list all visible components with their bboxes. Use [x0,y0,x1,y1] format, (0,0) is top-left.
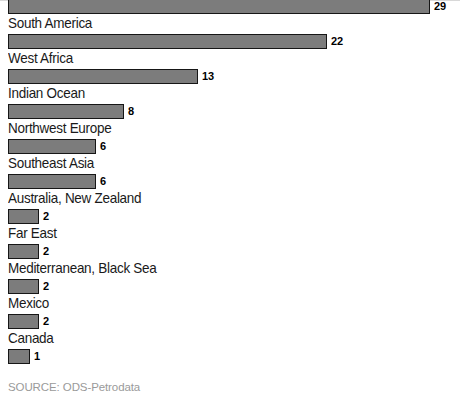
bar-group: Australia, New Zealand2 [0,190,460,225]
bar-row: 1 [0,349,460,365]
bar-row: 6 [0,174,460,190]
bar [8,0,430,14]
bar-row: 29 [0,0,460,15]
bar [8,174,96,189]
bar-category-label: Far East [8,224,57,243]
bar-row: 2 [0,209,460,225]
bar-category-label: West Africa [8,49,73,68]
bar-category-label: Mexico [8,294,49,313]
bar-row: 2 [0,314,460,330]
bar-value-label: 29 [434,0,446,14]
bar-category-label: Southeast Asia [8,154,94,173]
bar-row: 22 [0,34,460,50]
bar-row: 8 [0,104,460,120]
bar-category-label: Mediterranean, Black Sea [8,259,156,278]
bar-series-stack: 29South America22West Africa13Indian Oce… [0,0,460,365]
bar-category-label: Canada [8,329,54,348]
bar-row: 6 [0,139,460,155]
bar-category-label: Indian Ocean [8,84,85,103]
bar [8,69,198,84]
bar-group: Far East2 [0,225,460,260]
bar-group: Southeast Asia6 [0,155,460,190]
bar [8,34,327,49]
bar-value-label: 2 [43,278,49,294]
bar [8,244,39,259]
bar-value-label: 13 [202,68,214,84]
bar-group: Northwest Europe6 [0,120,460,155]
bar-group: West Africa13 [0,50,460,85]
bar [8,349,30,364]
horizontal-bar-chart: 29South America22West Africa13Indian Oce… [0,0,460,410]
bar-row: 13 [0,69,460,85]
bar-value-label: 2 [43,208,49,224]
chart-plot-area: 29South America22West Africa13Indian Oce… [0,0,460,378]
bar [8,314,39,329]
source-note: SOURCE: ODS-Petrodata [8,381,140,393]
bar-value-label: 6 [100,173,106,189]
bar [8,104,124,119]
bar-value-label: 6 [100,138,106,154]
bar-category-label: Australia, New Zealand [8,189,141,208]
bar-value-label: 1 [34,348,40,364]
bar-value-label: 2 [43,243,49,259]
bar-group: Canada1 [0,330,460,365]
bar-group: Mexico2 [0,295,460,330]
bar-group: Mediterranean, Black Sea2 [0,260,460,295]
bar [8,279,39,294]
bar-group: Indian Ocean8 [0,85,460,120]
bar [8,139,96,154]
bar-group: South America22 [0,15,460,50]
bar-group: 29 [0,0,460,15]
bar-value-label: 8 [128,103,134,119]
bar-category-label: Northwest Europe [8,119,111,138]
bar-value-label: 2 [43,313,49,329]
bar [8,209,39,224]
bar-category-label: South America [8,14,92,33]
bar-value-label: 22 [331,33,343,49]
bar-row: 2 [0,244,460,260]
bar-row: 2 [0,279,460,295]
